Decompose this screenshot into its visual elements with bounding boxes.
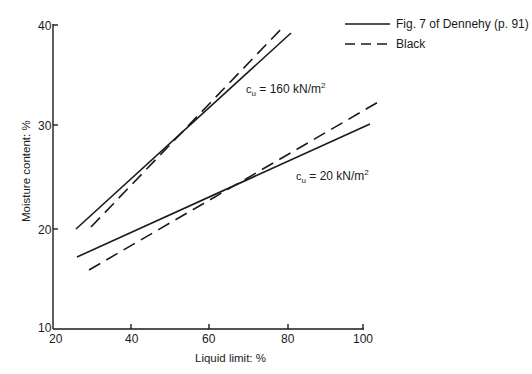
annotation-cu-160-sup: 2 [321,81,326,90]
y-axis-title: Moisture content: % [20,120,32,222]
line-black-cu20 [89,101,380,270]
annotation-cu-160-value: = 160 kN/m [256,82,321,96]
x-tick-label-60: 60 [202,332,216,346]
x-tick-label-20: 20 [49,332,63,346]
legend: Fig. 7 of Dennehy (p. 91) Black [345,17,529,51]
line-dennehy-cu20 [77,124,370,257]
x-tick-label-100: 100 [353,332,373,346]
x-tick-label-40: 40 [125,332,139,346]
annotation-cu-20: cu = 20 kN/m2 [296,168,369,185]
annotation-cu-20-value: = 20 kN/m [306,169,364,183]
annotation-cu-20-sup: 2 [364,168,369,177]
line-dennehy-cu160 [76,33,291,229]
x-axis-title: Liquid limit: % [195,352,266,364]
chart: 40 30 20 10 20 40 60 80 100 Liquid limit… [0,0,532,374]
x-tick-label-80: 80 [281,332,295,346]
y-tick-label-30: 30 [38,119,52,133]
y-tick-label-40: 40 [38,19,52,33]
annotation-cu-160: cu = 160 kN/m2 [246,81,326,98]
series-lines [76,25,380,270]
legend-dashed-label: Black [396,37,426,51]
line-black-cu160 [91,25,285,227]
legend-solid-label: Fig. 7 of Dennehy (p. 91) [396,17,529,31]
y-tick-label-20: 20 [38,223,52,237]
